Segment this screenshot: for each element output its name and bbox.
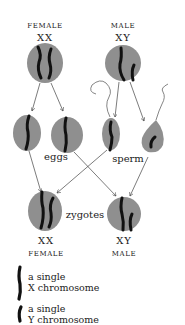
female-zygote-genotype: XX <box>38 235 54 246</box>
male-parent-label: MALE <box>111 22 135 30</box>
legend-x: a single X chromosome <box>19 267 100 299</box>
egg-cell <box>13 115 41 151</box>
x-chromosome-icon <box>49 49 51 78</box>
sperm-cell-y <box>142 84 168 152</box>
female-zygote-cell <box>28 191 62 231</box>
sperm-tail <box>91 81 111 117</box>
female-zygote-label: FEMALE <box>28 250 64 258</box>
male-zygote-label: MALE <box>112 250 136 258</box>
male-zygote-genotype: XY <box>116 235 132 246</box>
sperm-tail <box>156 84 168 120</box>
egg-cell <box>51 117 83 153</box>
male-zygote-cell <box>107 197 141 231</box>
arrow <box>32 83 40 111</box>
arrow <box>29 151 41 192</box>
x-chromosome-icon <box>65 118 66 151</box>
female-parent-label: FEMALE <box>27 22 63 30</box>
arrow <box>115 82 119 117</box>
legend-x-line1: a single <box>28 271 66 282</box>
arrow <box>74 152 116 196</box>
legend-y-line2: Y chromosome <box>27 314 99 325</box>
x-chromosome-icon <box>19 267 20 299</box>
y-chromosome-icon <box>19 307 21 321</box>
sperm-label: sperm <box>112 153 144 164</box>
arrow <box>130 82 144 121</box>
male-parent-cell <box>105 45 141 81</box>
sperm-cell-x <box>91 81 120 150</box>
arrow <box>51 83 63 111</box>
female-parent-cell <box>27 43 63 83</box>
legend-y-line1: a single <box>28 303 66 314</box>
sex-determination-diagram: FEMALE XX MALE XY eggs sperm <box>0 0 185 325</box>
x-chromosome-icon <box>110 122 112 150</box>
eggs-label: eggs <box>44 151 68 162</box>
female-parent-genotype: XX <box>37 32 53 43</box>
legend-x-line2: X chromosome <box>28 282 100 293</box>
zygotes-label: zygotes <box>66 209 104 220</box>
male-parent-genotype: XY <box>115 32 131 43</box>
legend-y: a single Y chromosome <box>19 303 99 325</box>
